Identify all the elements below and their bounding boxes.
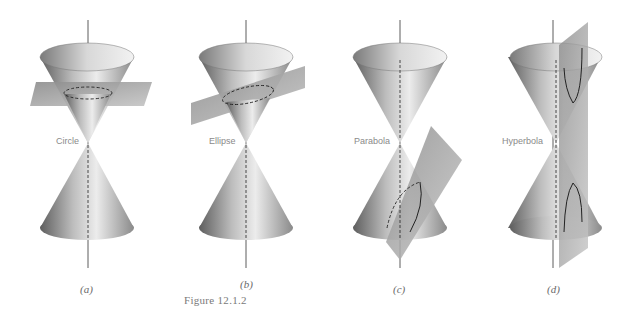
- sublabel-c: (c): [393, 283, 405, 295]
- label-hyperbola: Hyperbola: [502, 136, 543, 146]
- label-parabola: Parabola: [354, 136, 390, 146]
- sublabel-d: (d): [547, 283, 560, 295]
- panel-a-circle: [30, 20, 152, 268]
- label-circle: Circle: [56, 136, 79, 146]
- sublabel-a: (a): [80, 283, 93, 295]
- label-ellipse: Ellipse: [209, 136, 236, 146]
- sublabel-b: (b): [240, 278, 253, 290]
- conic-sections-figure: [0, 0, 632, 320]
- figure-caption: Figure 12.1.2: [184, 294, 247, 306]
